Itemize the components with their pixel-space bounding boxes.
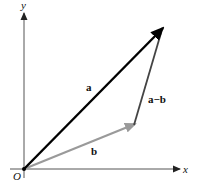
origin-point	[22, 167, 26, 171]
origin-label: O	[13, 170, 21, 182]
vector-diagram: y x O a b a−b	[0, 0, 199, 182]
vector-a-minus-b-label: a−b	[148, 93, 166, 105]
vector-b-label: b	[91, 145, 97, 157]
vector-a-label: a	[86, 81, 92, 93]
x-axis-label: x	[182, 163, 188, 175]
vector-a-minus-b	[134, 33, 161, 125]
y-axis-label: y	[20, 0, 26, 11]
vector-b	[24, 124, 135, 169]
